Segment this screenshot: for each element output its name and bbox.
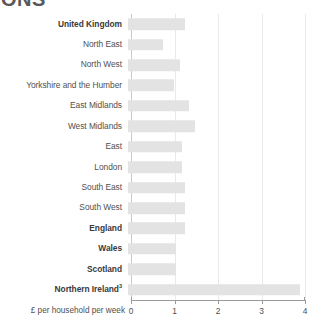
x-axis-end-cap <box>131 297 132 301</box>
bar-row: Yorkshire and the Humber <box>0 75 318 95</box>
bar <box>128 161 182 173</box>
bar <box>128 182 185 194</box>
bar-row: Wales <box>0 239 318 259</box>
bar-track <box>128 34 314 54</box>
x-axis-line <box>131 300 305 301</box>
bar-row-label: Yorkshire and the Humber <box>0 81 128 90</box>
chart-figure: ONS United KingdomNorth EastNorth WestYo… <box>0 0 318 322</box>
bar-rows: United KingdomNorth EastNorth WestYorksh… <box>0 14 318 300</box>
bar-row-label: United Kingdom <box>0 20 128 29</box>
x-axis-tick-label: 4 <box>303 305 308 317</box>
bar-track <box>128 137 314 157</box>
bar <box>128 141 182 153</box>
bar-row-label: Northern Ireland3 <box>0 285 128 294</box>
bar <box>128 80 174 92</box>
bar-track <box>128 259 314 279</box>
bar-row-label: East Midlands <box>0 101 128 110</box>
bar-row: Northern Ireland3 <box>0 279 318 299</box>
bar-row: South East <box>0 177 318 197</box>
bar-track <box>128 116 314 136</box>
bar-row: England <box>0 218 318 238</box>
plot-area: United KingdomNorth EastNorth WestYorksh… <box>0 14 318 322</box>
x-axis-tick-labels: 01234 <box>131 305 305 319</box>
x-axis-tick <box>262 300 263 304</box>
bar-track <box>128 157 314 177</box>
bar-row: North East <box>0 34 318 54</box>
x-axis-end-cap <box>304 297 305 301</box>
bar <box>128 121 195 133</box>
bar <box>128 243 176 255</box>
x-axis-tick <box>175 300 176 304</box>
x-axis-tick-label: 3 <box>259 305 264 317</box>
masthead-banner: ONS <box>0 0 318 10</box>
bar-row: North West <box>0 55 318 75</box>
masthead-title: ONS <box>0 0 318 10</box>
bar-row: East Midlands <box>0 96 318 116</box>
bar <box>128 223 185 235</box>
bar-row: South West <box>0 198 318 218</box>
bar-row: West Midlands <box>0 116 318 136</box>
bar-track <box>128 198 314 218</box>
bar-row: United Kingdom <box>0 14 318 34</box>
bar <box>128 284 300 296</box>
bar-track <box>128 14 314 34</box>
x-axis-tick <box>305 300 306 304</box>
bar-row-label: Scotland <box>0 265 128 274</box>
bar-track <box>128 75 314 95</box>
bar-track <box>128 55 314 75</box>
bar <box>128 18 185 30</box>
bar-row-label: England <box>0 224 128 233</box>
bar-row-label: North West <box>0 60 128 69</box>
x-axis-tick <box>218 300 219 304</box>
bar-track <box>128 96 314 116</box>
bar <box>128 264 176 276</box>
bar-row: East <box>0 137 318 157</box>
bar-row-label: West Midlands <box>0 122 128 131</box>
bar-track <box>128 279 314 299</box>
bar <box>128 39 163 51</box>
x-axis-tick-label: 0 <box>129 305 134 317</box>
footnote-marker: 3 <box>119 283 122 289</box>
bar-track <box>128 218 314 238</box>
bar <box>128 202 185 214</box>
bar-row: Scotland <box>0 259 318 279</box>
bar-row-label: Wales <box>0 244 128 253</box>
bar-row-label: South East <box>0 183 128 192</box>
bar-track <box>128 239 314 259</box>
x-axis-tick-label: 2 <box>216 305 221 317</box>
bar-row: London <box>0 157 318 177</box>
bar-row-label: North East <box>0 40 128 49</box>
bar-row-label: South West <box>0 203 128 212</box>
x-axis-tick-label: 1 <box>172 305 177 317</box>
bar <box>128 100 189 112</box>
bar <box>128 59 180 71</box>
x-axis-caption: £ per household per week <box>0 305 125 317</box>
bar-track <box>128 177 314 197</box>
bar-row-label: London <box>0 163 128 172</box>
bar-row-label: East <box>0 142 128 151</box>
